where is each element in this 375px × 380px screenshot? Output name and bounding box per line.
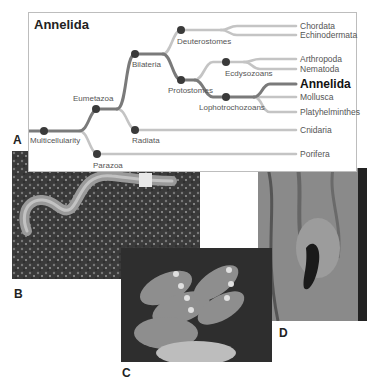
panel-label-c: C (122, 366, 131, 380)
node-label-multicellularity: Multicellularity (30, 136, 80, 145)
tip-label-arthropoda: Arthropoda (300, 54, 342, 64)
phylogenetic-tree: Annelida (28, 12, 357, 172)
photo-feather-duster-worms (121, 248, 272, 362)
node-label-protostomes: Protostomes (168, 86, 213, 95)
tip-label-cnidaria: Cnidaria (300, 125, 332, 135)
node-label-radiata: Radiata (132, 136, 160, 145)
photo-leech (258, 168, 367, 321)
tip-label-annelida: Annelida (300, 77, 351, 91)
tip-label-nematoda: Nematoda (300, 64, 339, 74)
node-label-ecdysozoans: Ecdysozoans (225, 69, 273, 78)
node-label-lophotrochozoans: Lophotrochozoans (199, 103, 265, 112)
tip-label-echinodermata: Echinodermata (300, 30, 357, 40)
node-label-bilateria: Bilateria (132, 60, 161, 69)
node-label-parazoa: Parazoa (93, 161, 123, 170)
panel-label-b: B (14, 287, 23, 301)
node-label-deuterostomes: Deuterostomes (177, 37, 231, 46)
node-label-eumetazoa: Eumetazoa (73, 94, 113, 103)
panel-label-d: D (279, 326, 288, 340)
tip-label-platyhelminthes: Platyhelminthes (300, 107, 360, 117)
tip-label-mollusca: Mollusca (300, 92, 334, 102)
panel-label-a: A (13, 133, 22, 147)
tip-label-porifera: Porifera (300, 149, 330, 159)
